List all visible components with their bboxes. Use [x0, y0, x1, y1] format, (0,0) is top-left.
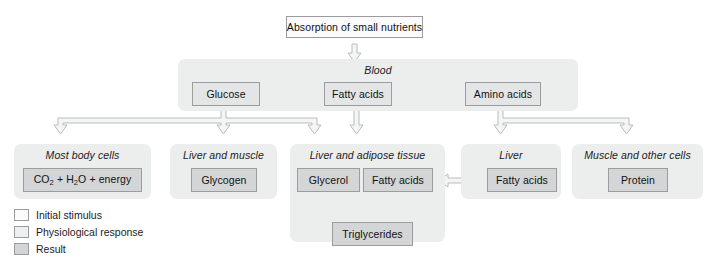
legend-label: Physiological response: [36, 226, 143, 238]
panel-muscle-and-other-cells-title: Muscle and other cells: [572, 149, 703, 161]
node-label: Glycerol: [309, 174, 348, 186]
node-label: Glucose: [206, 88, 245, 100]
legend-label: Initial stimulus: [36, 209, 102, 221]
legend-swatch-initial-stimulus: [14, 209, 29, 221]
node-fatty-acids-adipose[interactable]: Fatty acids: [363, 168, 433, 192]
panel-liver-and-adipose-tissue-title: Liver and adipose tissue: [290, 149, 445, 161]
flowchart-diagram: Absorption of small nutrients Blood Gluc…: [0, 0, 709, 271]
node-fatty-acids-liver[interactable]: Fatty acids: [487, 168, 557, 192]
legend-swatch-result: [14, 243, 29, 255]
legend: Initial stimulus Physiological response …: [14, 206, 143, 257]
legend-label: Result: [36, 243, 66, 255]
node-label: Triglycerides: [342, 228, 402, 240]
node-glycogen[interactable]: Glycogen: [191, 168, 257, 192]
panel-liver-and-muscle-title: Liver and muscle: [170, 149, 277, 161]
node-label: CO2 + H2O + energy: [34, 173, 132, 187]
node-label: Fatty acids: [372, 174, 424, 186]
legend-swatch-physiological-response: [14, 226, 29, 238]
panel-most-body-cells-title: Most body cells: [14, 149, 151, 161]
node-label: Amino acids: [474, 88, 532, 100]
node-co2-h2o-energy[interactable]: CO2 + H2O + energy: [23, 168, 142, 192]
node-label: Protein: [621, 174, 655, 186]
node-label: Fatty acids: [496, 174, 548, 186]
node-triglycerides[interactable]: Triglycerides: [332, 222, 413, 246]
node-label: Glycogen: [201, 174, 246, 186]
legend-item-initial-stimulus: Initial stimulus: [14, 206, 143, 223]
legend-item-result: Result: [14, 240, 143, 257]
panel-liver-title: Liver: [461, 149, 561, 161]
legend-item-physiological-response: Physiological response: [14, 223, 143, 240]
node-amino-acids[interactable]: Amino acids: [465, 82, 541, 106]
node-glucose[interactable]: Glucose: [192, 82, 260, 106]
node-protein[interactable]: Protein: [608, 168, 668, 192]
panel-blood-title: Blood: [178, 64, 578, 76]
node-fatty-acids-blood[interactable]: Fatty acids: [324, 82, 392, 106]
node-label: Absorption of small nutrients: [287, 21, 422, 33]
node-glycerol[interactable]: Glycerol: [297, 168, 360, 192]
node-absorption-of-small-nutrients[interactable]: Absorption of small nutrients: [286, 16, 423, 38]
node-label: Fatty acids: [332, 88, 384, 100]
